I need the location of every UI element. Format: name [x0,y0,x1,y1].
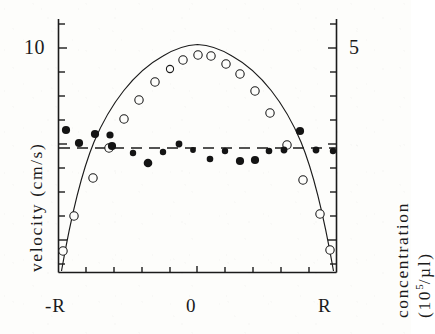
left-axis-ticks [59,24,68,264]
x-axis-tick-label-center: 0 [186,295,196,317]
right-axis-title: concentration (105/µl) [392,202,435,318]
velocity-data-points [59,51,334,255]
concentration-data-points [62,126,336,167]
left-axis-title: velocity (cm/s) [26,143,47,272]
x-axis-tick-label-left: -R [45,295,66,317]
right-axis-title-suffix: /µl) [414,252,434,284]
bottom-axis-ticks [86,266,309,273]
right-axis-tick-label: 5 [349,36,360,59]
velocity-fit-curve [62,45,334,272]
x-axis-tick-label-right: R [318,295,331,317]
right-axis-title-exponent: 5 [413,284,425,290]
left-axis-tick-label: 10 [24,36,45,59]
right-axis-ticks [328,24,337,264]
